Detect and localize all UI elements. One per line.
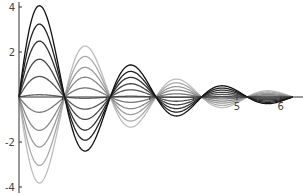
y-tick-label: -2: [5, 137, 15, 148]
y-tick-label: 4: [9, 2, 15, 13]
x-tick-label: 6: [277, 101, 283, 112]
y-tick-label: -4: [5, 182, 15, 193]
curve-family: [19, 6, 293, 183]
y-tick-label: 2: [9, 47, 15, 58]
x-tick-label: 5: [234, 101, 240, 112]
damped-sine-family-plot: 56 -4-224: [0, 0, 303, 195]
